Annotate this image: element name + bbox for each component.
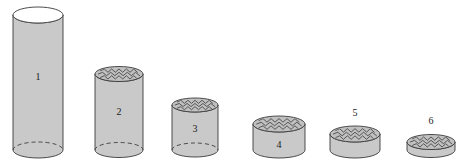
cylinder-diagram: 123456 <box>0 0 475 163</box>
cylinder-label-2: 2 <box>117 106 122 117</box>
cylinder-2: 2 <box>95 67 143 158</box>
cylinder-label-3: 3 <box>193 123 198 134</box>
cylinder-top-1 <box>13 7 63 23</box>
cylinder-6: 6 <box>407 115 455 157</box>
cylinder-1: 1 <box>13 7 63 158</box>
cylinder-3: 3 <box>172 98 218 157</box>
cylinder-label-4: 4 <box>277 139 282 150</box>
cylinder-5: 5 <box>330 107 380 158</box>
cylinder-label-6: 6 <box>429 115 434 126</box>
cylinder-diagram-svg: 123456 <box>0 0 475 163</box>
cylinder-label-5: 5 <box>353 107 358 118</box>
cylinder-label-1: 1 <box>36 71 41 82</box>
cylinder-4: 4 <box>253 116 305 158</box>
cylinder-body-1 <box>13 15 63 158</box>
